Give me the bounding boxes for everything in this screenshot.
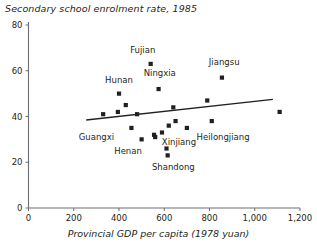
data-point-marker [220,76,224,80]
data-point-marker [101,112,105,116]
x-axis-tick-label: 600 [156,213,172,223]
data-point-label: Xinjiang [162,137,196,147]
data-point-label: Ningxia [144,68,176,78]
data-point-marker [156,87,160,91]
x-axis-tick-label: 800 [201,213,217,223]
data-point-label: Guangxi [79,132,114,142]
data-point-label: Hunan [105,75,133,85]
data-point-marker [135,112,139,116]
y-axis-tick-label: 40 [0,112,23,122]
scatter-plot-canvas [0,0,317,246]
data-point-marker [210,119,214,123]
x-axis-tick-label: 1,200 [288,213,312,223]
data-point-marker [185,126,189,130]
data-point-marker [171,105,175,109]
y-axis-tick-label: 20 [0,157,23,167]
data-point-label: Jiangsu [209,57,240,67]
data-point-marker [129,126,133,130]
y-axis-tick-label: 0 [0,203,23,213]
data-point-marker [140,137,144,141]
data-point-label: Heilongjiang [197,132,250,142]
data-point-marker [149,62,153,66]
data-point-label: Shandong [152,162,195,172]
y-axis-tick-label: 60 [0,66,23,76]
data-point-marker [164,146,168,150]
y-axis-tick-label: 80 [0,20,23,30]
data-point-marker [117,92,121,96]
x-axis-tick-label: 200 [66,213,82,223]
x-axis-tick-label: 0 [26,213,31,223]
data-point-marker [278,110,282,114]
data-point-marker [173,119,177,123]
data-point-marker [124,103,128,107]
data-point-marker [153,135,157,139]
x-axis-title: Provincial GDP per capita (1978 yuan) [0,228,317,239]
data-point-marker [160,130,164,134]
data-point-label: Fujian [130,45,155,55]
data-point-label: Henan [114,146,142,156]
data-point-marker [166,153,170,157]
data-point-marker [116,110,120,114]
x-axis-tick-label: 400 [111,213,127,223]
chart-figure: Secondary school enrolment rate, 1985 02… [0,0,317,246]
data-point-marker [205,98,209,102]
trend-line [86,99,273,120]
data-point-marker [167,124,171,128]
x-axis-tick-label: 1,000 [243,213,267,223]
